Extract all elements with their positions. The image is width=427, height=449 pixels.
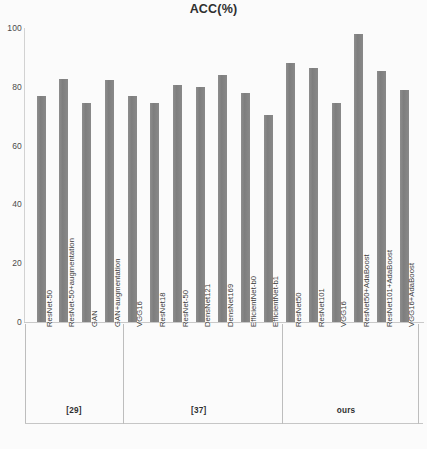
x-tick-label: DensNet169 (226, 284, 235, 327)
group-baseline-rule (25, 423, 423, 424)
group-divider (282, 324, 283, 424)
bar (286, 63, 295, 322)
x-tick-label: VGG16 (339, 301, 348, 327)
group-label: [37] (116, 406, 282, 415)
x-tick-label: ResNet101+AdaBoost (385, 250, 394, 327)
x-axis-labels: ResNet-50ResNet-50+augmentationGANGAN+au… (25, 323, 424, 405)
x-tick-label: ResNet50 (294, 292, 303, 327)
bar (82, 103, 91, 322)
x-tick-label: VGG16 (135, 301, 144, 327)
chart-title: ACC(%) (0, 2, 427, 16)
x-tick-label: ResNet101 (317, 288, 326, 327)
x-tick-label: ResNet-50+augmentation (67, 238, 76, 327)
x-tick-label: DensNet121 (203, 284, 212, 327)
bar (173, 85, 182, 322)
x-tick-label: ResNet-50 (45, 290, 54, 327)
group-divider (418, 324, 419, 424)
bar (309, 68, 318, 322)
x-tick-label: VGG16+AdaBoost (407, 263, 416, 327)
x-tick-label: EfficientNet-b0 (249, 276, 258, 327)
y-tick-label: 80 (0, 82, 22, 92)
x-tick-label: ResNet50+AdaBoost (362, 254, 371, 327)
chart-figure: ACC(%) 020406080100 ResNet-50ResNet-50+a… (0, 0, 427, 449)
group-label: [29] (25, 406, 123, 415)
bar (37, 96, 46, 322)
y-tick-label: 100 (0, 23, 22, 33)
y-tick-label: 60 (0, 141, 22, 151)
y-tick-label: 40 (0, 199, 22, 209)
y-tick-label: 20 (0, 258, 22, 268)
x-tick-label: ResNet18 (158, 292, 167, 327)
x-tick-label: GAN (90, 310, 99, 327)
bar (128, 96, 137, 322)
bar (150, 103, 159, 322)
y-tick-label: 0 (0, 317, 22, 327)
x-tick-label: EfficientNet-b1 (271, 276, 280, 327)
x-tick-label: GAN+augmentation (113, 258, 122, 327)
group-divider (123, 324, 124, 424)
group-label: ours (274, 406, 417, 415)
bar (332, 103, 341, 322)
x-tick-label: ResNet-50 (181, 290, 190, 327)
